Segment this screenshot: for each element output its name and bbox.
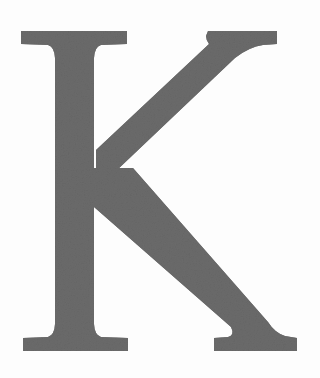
letter-canvas: K bbox=[0, 0, 320, 378]
letter-k-glyph bbox=[0, 0, 320, 378]
page-background bbox=[0, 0, 320, 378]
